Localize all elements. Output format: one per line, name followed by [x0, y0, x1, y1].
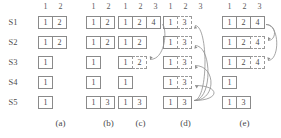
- panel-d-caption: (d): [169, 118, 203, 129]
- panel-e-row-s3: 124: [222, 56, 265, 69]
- panel-a-header-2: 2: [53, 2, 68, 11]
- panel-e-cell-s3-1: 1: [222, 56, 237, 69]
- panel-c-row-s3: 12: [118, 56, 147, 69]
- panel-d-cell-s1-1: 1: [163, 16, 178, 29]
- panel-d-row-s1: 13: [163, 16, 192, 29]
- panel-c-cell-s1-2: 2: [132, 16, 147, 29]
- panel-e-header-2: 2: [237, 2, 252, 11]
- panel-d-cell-s5-1: 1: [163, 96, 178, 109]
- panel-c-header-1: 1: [118, 2, 133, 11]
- panel-c-cell-s5-1: 1: [118, 96, 133, 109]
- panel-c-row-s1: 124: [118, 16, 161, 29]
- panel-d-row-s4: 13: [163, 76, 192, 89]
- panel-a-cell-s3-1: 1: [38, 56, 53, 69]
- panel-e-row-s4: 1: [222, 76, 237, 89]
- panel-d-header-3: 3: [193, 2, 208, 11]
- panel-d-cell-s5-2: 3: [177, 96, 192, 109]
- panel-a-cell-s1-1: 1: [38, 16, 53, 29]
- panel-b-row-s2: 12: [86, 36, 115, 49]
- panel-a-row-s2: 12: [38, 36, 67, 49]
- panel-d-header-2: 2: [178, 2, 193, 11]
- panel-b-cell-s1-2: 2: [100, 16, 115, 29]
- panel-a-cell-s5-1: 1: [38, 96, 53, 109]
- panel-d-cell-s3-2: 3: [177, 56, 192, 69]
- panel-c-cell-s2-1: 1: [118, 36, 133, 49]
- panel-d-cell-s4-1: 1: [163, 76, 178, 89]
- panel-e-cell-s1-2: 2: [236, 16, 251, 29]
- panel-e-cell-s1-3: 4: [250, 16, 265, 29]
- panel-a-row-s1: 12: [38, 16, 67, 29]
- panel-a-row-s5: 1: [38, 96, 53, 109]
- panel-c-cell-s1-3: 4: [146, 16, 161, 29]
- panel-e-cell-s2-1: 1: [222, 36, 237, 49]
- panel-e-cell-s2-3: 4: [250, 36, 265, 49]
- row-label-s1: S1: [4, 17, 22, 27]
- panel-a-cell-s2-1: 1: [38, 36, 53, 49]
- panel-c-row-s2: 12: [118, 36, 147, 49]
- panel-b-row-s5: 13: [86, 96, 115, 109]
- panel-b-cell-s2-2: 2: [100, 36, 115, 49]
- row-label-s2: S2: [4, 37, 22, 47]
- row-label-s5: S5: [4, 97, 22, 107]
- panel-a-cell-s1-2: 2: [52, 16, 67, 29]
- panel-a-cell-s2-2: 2: [52, 36, 67, 49]
- panel-c-cell-s5-2: 3: [132, 96, 147, 109]
- panel-d: 1231313131313(d): [163, 0, 214, 138]
- panel-e-cell-s3-3: 4: [250, 56, 265, 69]
- panel-d-header-1: 1: [163, 2, 178, 11]
- panel-a-caption: (a): [44, 118, 78, 129]
- panel-b-cell-s4-1: 1: [86, 76, 101, 89]
- panel-e: 123124124124113(e): [222, 0, 273, 138]
- row-label-column: S1 S2 S3 S4 S5: [4, 0, 22, 138]
- panel-b-header-2: 2: [101, 2, 116, 11]
- panel-b-row-s1: 12: [86, 16, 115, 29]
- panel-b-row-s4: 1: [86, 76, 101, 89]
- panel-b-cell-s2-1: 1: [86, 36, 101, 49]
- panel-d-cell-s3-1: 1: [163, 56, 178, 69]
- panel-c-caption: (c): [124, 118, 158, 129]
- panel-c-header-2: 2: [133, 2, 148, 11]
- row-label-s3: S3: [4, 57, 22, 67]
- panel-c-row-s5: 13: [118, 96, 147, 109]
- panel-e-cell-s4-1: 1: [222, 76, 237, 89]
- panel-d-row-s5: 13: [163, 96, 192, 109]
- panel-a-row-s4: 1: [38, 76, 53, 89]
- panel-c-cell-s2-2: 2: [132, 36, 147, 49]
- panel-b-row-s3: 1: [86, 56, 101, 69]
- panel-e-cell-s3-2: 2: [236, 56, 251, 69]
- panel-b-header-1: 1: [86, 2, 101, 11]
- panel-c: 1231241212113(c): [118, 0, 169, 138]
- panel-d-row-s2: 13: [163, 36, 192, 49]
- panel-d-cell-s2-1: 1: [163, 36, 178, 49]
- panel-e-header-1: 1: [222, 2, 237, 11]
- panel-b-cell-s5-1: 1: [86, 96, 101, 109]
- panel-e-caption: (e): [228, 118, 262, 129]
- panel-c-cell-s3-2: 2: [132, 56, 147, 69]
- panel-d-row-s3: 13: [163, 56, 192, 69]
- panel-a-header-1: 1: [38, 2, 53, 11]
- panel-b-cell-s3-1: 1: [86, 56, 101, 69]
- panel-e-row-s5: 13: [222, 96, 251, 109]
- panel-e-row-s1: 124: [222, 16, 265, 29]
- panel-b-cell-s5-2: 3: [100, 96, 115, 109]
- panel-d-cell-s2-2: 3: [177, 36, 192, 49]
- panel-e-cell-s1-1: 1: [222, 16, 237, 29]
- panel-b-cell-s1-1: 1: [86, 16, 101, 29]
- panel-c-cell-s4-1: 1: [118, 76, 133, 89]
- panel-a-row-s3: 1: [38, 56, 53, 69]
- row-label-s4: S4: [4, 77, 22, 87]
- panel-e-cell-s2-2: 2: [236, 36, 251, 49]
- panel-e-cell-s5-2: 3: [236, 96, 251, 109]
- panel-e-cell-s5-1: 1: [222, 96, 237, 109]
- panel-a-cell-s4-1: 1: [38, 76, 53, 89]
- panel-c-row-s4: 1: [118, 76, 133, 89]
- panel-c-cell-s3-1: 1: [118, 56, 133, 69]
- panel-e-row-s2: 124: [222, 36, 265, 49]
- panel-d-cell-s4-2: 3: [177, 76, 192, 89]
- panel-d-cell-s1-2: 3: [177, 16, 192, 29]
- panel-a: 121212111(a): [38, 0, 89, 138]
- figure-container: S1 S2 S3 S4 S5 121212111(a)1212121113(b)…: [0, 0, 281, 138]
- panel-c-header-3: 3: [148, 2, 163, 11]
- panel-e-header-3: 3: [252, 2, 267, 11]
- panel-c-cell-s1-1: 1: [118, 16, 133, 29]
